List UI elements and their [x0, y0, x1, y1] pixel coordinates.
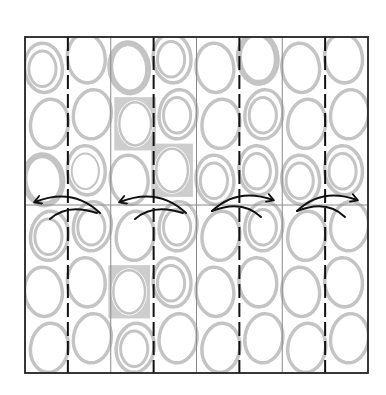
pattern-square-hole [154, 147, 190, 194]
pattern-square-hole [117, 100, 153, 147]
pattern-cell [114, 97, 156, 150]
pattern-cell [108, 265, 150, 318]
origami-diagram [0, 0, 386, 395]
pleat-fold-illustration [0, 0, 386, 395]
pattern-cell [151, 144, 193, 197]
pattern-square-hole [111, 268, 147, 315]
